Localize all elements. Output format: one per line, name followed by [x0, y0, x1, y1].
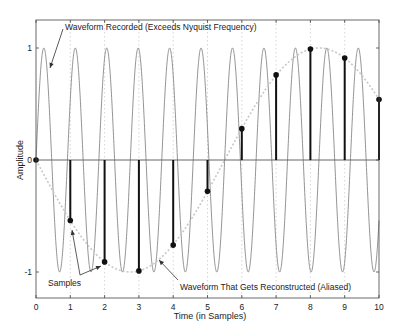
sample-point	[170, 242, 176, 248]
arrow-head-icon	[71, 230, 75, 235]
sample-point	[239, 126, 245, 132]
y-axis-label: Amplitude	[15, 140, 25, 180]
sample-point	[342, 55, 348, 61]
annotation-arrow-line	[50, 29, 63, 68]
arrow-head-icon	[49, 63, 53, 68]
sample-point	[102, 259, 108, 265]
x-tick-label: 2	[102, 302, 107, 312]
aliasing-chart: 012345678910-101 Waveform Recorded (Exce…	[0, 0, 394, 330]
sample-point	[136, 268, 142, 274]
x-tick-label: 1	[68, 302, 73, 312]
y-tick-label: -1	[24, 267, 32, 277]
x-tick-label: 10	[374, 302, 384, 312]
x-tick-label: 8	[308, 302, 313, 312]
y-tick-label: 1	[27, 43, 32, 53]
sample-point	[205, 189, 211, 195]
annotation-aliased-waveform: Waveform That Gets Reconstructed (Aliase…	[180, 282, 351, 292]
annotation-recorded-waveform: Waveform Recorded (Exceeds Nyquist Frequ…	[65, 22, 257, 32]
x-tick-label: 0	[34, 302, 39, 312]
x-tick-label: 9	[342, 302, 347, 312]
annotation-samples: Samples	[48, 278, 81, 288]
x-tick-label: 3	[137, 302, 142, 312]
sample-point	[308, 46, 314, 52]
sample-point	[68, 218, 74, 224]
annotation-arrow-line	[72, 230, 80, 275]
y-tick-label: 0	[27, 155, 32, 165]
sample-point	[273, 72, 279, 78]
x-tick-label: 7	[274, 302, 279, 312]
x-axis-label: Time (in Samples)	[174, 311, 247, 321]
